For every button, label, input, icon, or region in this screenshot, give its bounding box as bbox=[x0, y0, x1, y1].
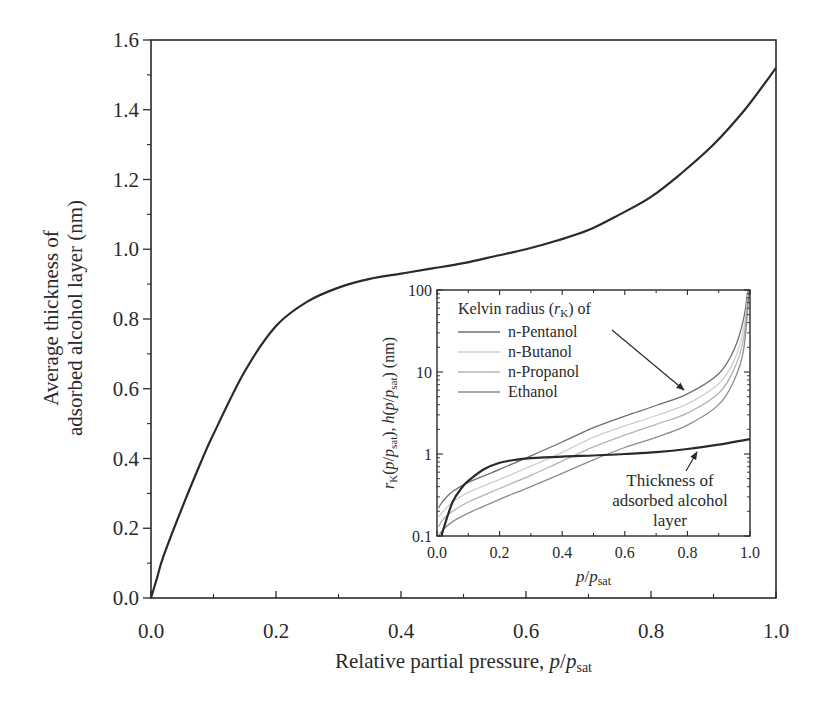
inset-y-axis-label: rK(p/psat), h(p/psat) (nm) bbox=[380, 337, 399, 489]
chart-svg: 0.00.20.40.60.81.00.00.20.40.60.81.01.21… bbox=[0, 0, 822, 704]
inset-x-tick-label: 1.0 bbox=[740, 544, 760, 561]
figure: 0.00.20.40.60.81.00.00.20.40.60.81.01.21… bbox=[0, 0, 822, 704]
main-x-axis-label: Relative partial pressure, p/psat bbox=[335, 649, 592, 675]
thickness-annotation-line: Thickness of bbox=[626, 471, 714, 490]
y-tick-label: 1.4 bbox=[113, 98, 140, 122]
y-tick-label: 0.8 bbox=[113, 307, 139, 331]
legend-label: n-Propanol bbox=[508, 363, 580, 381]
inset-plot: 0.00.20.40.60.81.00.1110100p/psatrK(p/ps… bbox=[380, 282, 760, 588]
y-tick-label: 0.0 bbox=[113, 586, 139, 610]
inset-x-axis-label: p/psat bbox=[575, 567, 612, 588]
x-tick-label: 0.4 bbox=[388, 619, 415, 643]
y-tick-label: 1.0 bbox=[113, 237, 139, 261]
thickness-annotation-line: layer bbox=[653, 511, 687, 530]
thickness-annotation-line: adsorbed alcohol bbox=[612, 491, 728, 510]
inset-x-tick-label: 0.4 bbox=[552, 544, 572, 561]
legend-title: Kelvin radius (rK) of bbox=[458, 300, 592, 319]
x-tick-label: 0.2 bbox=[263, 619, 289, 643]
y-label-line-1: Average thickness of bbox=[39, 230, 63, 406]
x-tick-label: 0.8 bbox=[638, 619, 664, 643]
x-tick-label: 1.0 bbox=[763, 619, 789, 643]
inset-y-tick-label: 10 bbox=[416, 364, 432, 381]
y-tick-label: 0.2 bbox=[113, 516, 139, 540]
y-label-line-2: adsorbed alcohol layer (nm) bbox=[63, 200, 87, 436]
y-tick-label: 1.2 bbox=[113, 168, 139, 192]
inset-x-tick-label: 0.0 bbox=[427, 544, 447, 561]
y-tick-label: 0.4 bbox=[113, 447, 140, 471]
inset-y-tick-label: 100 bbox=[408, 282, 432, 299]
legend-label: Ethanol bbox=[508, 383, 558, 400]
inset-x-tick-label: 0.8 bbox=[677, 544, 697, 561]
main-y-axis: 0.00.20.40.60.81.01.21.41.6 bbox=[113, 28, 151, 610]
y-tick-label: 0.6 bbox=[113, 377, 139, 401]
x-tick-label: 0.6 bbox=[513, 619, 539, 643]
inset-x-tick-label: 0.6 bbox=[615, 544, 635, 561]
inset-y-tick-label: 0.1 bbox=[412, 528, 432, 545]
y-tick-label: 1.6 bbox=[113, 28, 139, 52]
legend-label: n-Pentanol bbox=[508, 323, 578, 340]
inset-x-tick-label: 0.2 bbox=[490, 544, 510, 561]
legend-label: n-Butanol bbox=[508, 343, 573, 360]
inset-y-tick-label: 1 bbox=[424, 446, 432, 463]
main-y-axis-label: Average thickness ofadsorbed alcohol lay… bbox=[39, 200, 87, 436]
x-tick-label: 0.0 bbox=[138, 619, 164, 643]
